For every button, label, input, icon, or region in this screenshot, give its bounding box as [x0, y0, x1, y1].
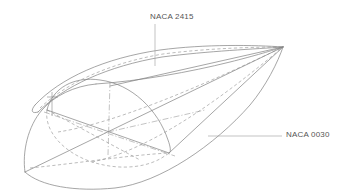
horizontal-centerline	[44, 112, 175, 156]
body-hidden-ruling-far	[58, 47, 283, 132]
longitudinal-axis-centerline	[108, 110, 205, 132]
nose-upper-cap	[32, 105, 38, 113]
leader-lines-group	[155, 24, 282, 136]
planform-upper-left-curve	[24, 84, 96, 172]
upper-camber-dashed-curve	[40, 47, 283, 108]
planform-lower-outer-curve	[25, 47, 283, 189]
nose-hidden-diagonal	[47, 110, 140, 160]
solid-outline-group	[24, 45, 283, 189]
body-ruling-keel	[25, 47, 283, 172]
airfoil-wireframe-svg	[0, 0, 343, 196]
airfoil-diagram: NACA 2415 NACA 0030	[0, 0, 343, 196]
upper-surface-near-curve	[38, 47, 283, 112]
cross-section-hidden-arc	[47, 110, 169, 167]
label-naca-2415: NACA 2415	[150, 12, 194, 21]
body-ruling-upper	[110, 47, 283, 86]
vertical-centerline	[108, 82, 110, 155]
label-naca-0030: NACA 0030	[286, 130, 330, 139]
